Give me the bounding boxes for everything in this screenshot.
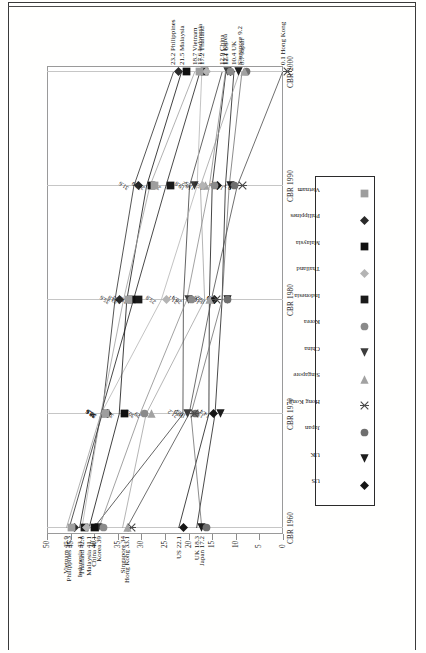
x-axis-tick-label: CBR 1980 xyxy=(287,284,295,316)
y-axis-tick-label: 25 xyxy=(161,541,169,548)
legend-marker xyxy=(355,375,364,384)
series-label-2000-malaysia: 21.5 Malaysia xyxy=(178,25,186,65)
legend-item-hong-kong[interactable]: Hong Kong xyxy=(316,393,374,420)
marker-us xyxy=(174,524,183,533)
y-axis-tick xyxy=(189,534,190,540)
marker-korea xyxy=(135,410,144,419)
legend-label: Malaysia xyxy=(296,240,320,247)
page-top-rule xyxy=(8,6,416,7)
legend-marker xyxy=(355,322,364,331)
legend-marker xyxy=(355,243,364,252)
marker-vietnam xyxy=(62,524,71,533)
y-axis-tick xyxy=(259,534,260,540)
legend-marker xyxy=(355,481,364,490)
scanned-page: 50454035302520151050 CBR 1960CBR 1970CBR… xyxy=(0,0,426,653)
legend-label: Philippines xyxy=(290,214,320,221)
marker-malaysia xyxy=(115,410,124,419)
marker-japan xyxy=(197,524,206,533)
legend-label: Vietnam xyxy=(298,187,320,194)
legend-marker xyxy=(355,296,364,305)
chart-legend: USUKJapanHong KongSingaporeChinaKoreaInd… xyxy=(315,176,375,506)
y-axis-tick-label: 10 xyxy=(232,541,240,548)
marker-malaysia xyxy=(85,524,94,533)
y-axis-tick xyxy=(141,534,142,540)
y-axis-tick-label: 15 xyxy=(208,541,216,548)
marker-hong-kong xyxy=(278,68,287,77)
legend-marker xyxy=(355,455,364,464)
series-label-2000-philippines: 23.2 Philippines xyxy=(169,19,177,65)
marker-indonesia xyxy=(161,182,170,191)
legend-label: Thailand xyxy=(297,267,320,274)
marker-uk xyxy=(211,410,220,419)
series-label-2000-vietnam: 18.7 Vietnam xyxy=(191,27,199,65)
legend-marker xyxy=(355,349,364,358)
x-axis-tick-label: CBR 1960 xyxy=(287,512,295,544)
legend-item-korea[interactable]: Korea xyxy=(316,313,374,340)
marker-thailand xyxy=(157,296,166,305)
legend-marker xyxy=(355,402,364,411)
marker-vietnam xyxy=(119,296,128,305)
legend-item-us[interactable]: US xyxy=(316,472,374,499)
legend-marker xyxy=(355,216,364,225)
y-axis-tick xyxy=(236,534,237,540)
series-label-2000-korea: 12.2 Korea xyxy=(221,34,229,65)
legend-item-china[interactable]: China xyxy=(316,340,374,367)
marker-hong-kong xyxy=(233,182,242,191)
y-axis-tick-label: 5 xyxy=(255,544,263,548)
legend-item-uk[interactable]: UK xyxy=(316,446,374,473)
series-label-1960-korea: Korea 39 xyxy=(95,536,103,562)
marker-singapore xyxy=(118,524,127,533)
marker-vietnam xyxy=(96,410,105,419)
y-axis-tick-label: 20 xyxy=(185,541,193,548)
marker-philippines xyxy=(169,68,178,77)
legend-item-japan[interactable]: Japan xyxy=(316,419,374,446)
x-axis-tick-label: CBR 1990 xyxy=(287,170,295,202)
y-axis-tick-label: 30 xyxy=(137,541,145,548)
legend-label: Indonesia xyxy=(294,293,320,300)
y-axis-tick-label: 50 xyxy=(43,541,51,548)
series-label-2000-thailand: 17.2 Thailand xyxy=(198,26,206,65)
marker-singapore xyxy=(235,68,244,77)
marker-korea xyxy=(221,68,230,77)
legend-label: UK xyxy=(310,452,320,459)
legend-label: Korea xyxy=(304,320,320,327)
legend-label: China xyxy=(304,346,320,353)
marker-thailand xyxy=(193,182,202,191)
series-label-2000-singapore: Singapore 9.2 xyxy=(236,26,244,65)
y-axis-tick xyxy=(165,534,166,540)
y-axis-tick xyxy=(212,534,213,540)
series-label-1960-malaysia: Malaysia 41.1 xyxy=(85,536,93,576)
series-label-2000-hong-kong: 0.1 Hong Kong xyxy=(279,22,287,65)
chart-canvas: 50454035302520151050 CBR 1960CBR 1970CBR… xyxy=(33,26,393,626)
series-label-1960-japan: Japan 17.2 xyxy=(198,536,206,566)
marker-vietnam xyxy=(190,68,199,77)
marker-korea xyxy=(182,296,191,305)
legend-item-thailand[interactable]: Thailand xyxy=(316,260,374,287)
legend-label: US xyxy=(312,479,320,486)
legend-marker xyxy=(355,428,364,437)
legend-item-indonesia[interactable]: Indonesia xyxy=(316,287,374,314)
y-axis-tick xyxy=(47,534,48,540)
legend-label: Hong Kong xyxy=(289,399,320,406)
legend-item-vietnam[interactable]: Vietnam xyxy=(316,181,374,208)
marker-singapore xyxy=(200,296,209,305)
legend-label: Singapore xyxy=(293,373,320,380)
series-label-1960-us: US 22.1 xyxy=(175,536,183,559)
legend-item-philippines[interactable]: Philippines xyxy=(316,207,374,234)
y-axis-tick-label: 0 xyxy=(279,544,287,548)
legend-label: Japan xyxy=(305,426,320,433)
y-axis-tick xyxy=(283,534,284,540)
marker-vietnam xyxy=(145,182,154,191)
legend-item-singapore[interactable]: Singapore xyxy=(316,366,374,393)
legend-marker xyxy=(355,190,364,199)
series-label-1960-singapore: Singapore 34 xyxy=(119,536,127,573)
legend-marker xyxy=(355,269,364,278)
marker-china xyxy=(178,410,187,419)
legend-item-malaysia[interactable]: Malaysia xyxy=(316,234,374,261)
series-label-1960-vietnam: Vietnam 45.9 xyxy=(62,536,70,574)
